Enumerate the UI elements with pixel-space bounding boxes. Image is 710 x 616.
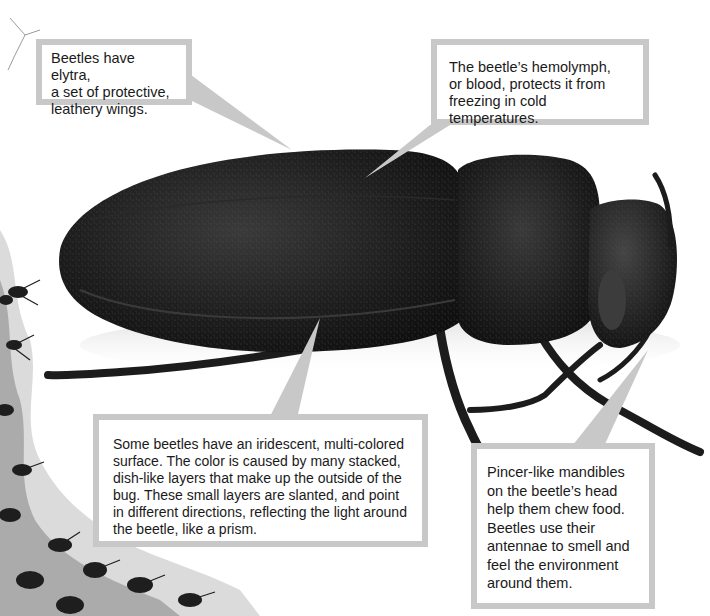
- callout-elytra: Beetles have elytra, a set of protective…: [36, 39, 192, 105]
- beetle-head: [588, 175, 677, 348]
- beetle-eye: [598, 270, 626, 330]
- callout-elytra-text: Beetles have elytra, a set of protective…: [51, 50, 177, 118]
- beetle-thorax: [458, 155, 600, 345]
- callout-iridescent: Some beetles have an iridescent, multi-c…: [93, 414, 428, 547]
- callout-hemolymph-text: The beetle’s hemolymph, or blood, protec…: [449, 59, 631, 127]
- callout-iridescent-text: Some beetles have an iridescent, multi-c…: [113, 436, 412, 538]
- callout-mandibles-text: Pincer-like mandibles on the beetle’s he…: [487, 463, 639, 593]
- callout-hemolymph: The beetle’s hemolymph, or blood, protec…: [431, 39, 649, 125]
- beetle-elytra: [59, 150, 462, 353]
- callout-mandibles: Pincer-like mandibles on the beetle’s he…: [471, 443, 655, 609]
- beetle-infographic: Beetles have elytra, a set of protective…: [0, 0, 710, 616]
